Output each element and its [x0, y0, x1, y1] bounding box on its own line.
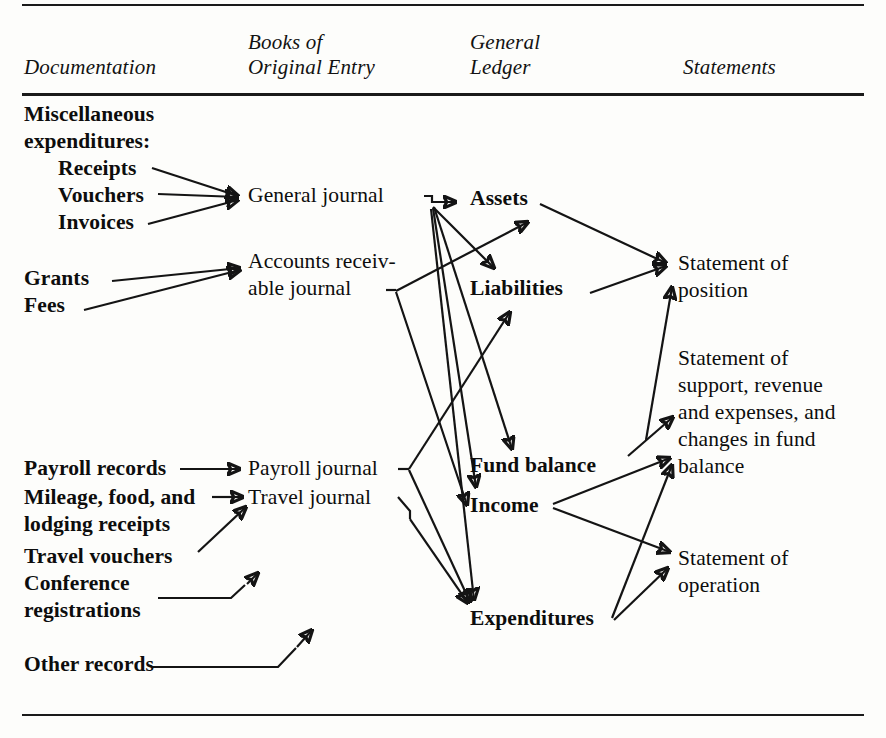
arrow-assets-to-statement-of-position: [540, 204, 666, 263]
arrow-receipts-to-general-journal: [152, 168, 238, 196]
node-fund-balance: Fund balance: [470, 452, 596, 479]
node-general-journal: General journal: [248, 182, 384, 209]
arrow-fund-balance-to-statement-of-position: [646, 287, 672, 440]
node-fees: Fees: [24, 292, 65, 319]
arrow-payroll-journal-to-expenditures: [409, 470, 470, 602]
arrow-other-records-head: [297, 630, 312, 647]
arrow-general-journal-to-fund-balance: [434, 207, 512, 449]
node-receipts: Receipts: [58, 155, 136, 182]
column-header-general-ledger: General Ledger: [470, 30, 540, 80]
node-liabilities: Liabilities: [470, 275, 563, 302]
arrow-general-journal-to-expenditures: [431, 209, 474, 600]
arrow-general-journal-to-assets: [424, 196, 456, 202]
column-header-books-of-original-entry: Books of Original Entry: [248, 30, 375, 80]
path-travel-journal-elbow: [398, 497, 410, 519]
node-statement-of-operation: Statement of operation: [678, 545, 788, 599]
header-rule: [22, 93, 864, 96]
node-conference-registrations: Conference registrations: [24, 570, 141, 624]
arrow-payroll-journal-to-liabilities: [409, 312, 510, 469]
node-vouchers: Vouchers: [58, 182, 144, 209]
arrow-invoices-to-general-journal: [148, 200, 238, 224]
node-accounts-receivable-journal: Accounts receiv- able journal: [248, 248, 396, 302]
arrow-other-records-to-travel-journal: [152, 648, 296, 667]
arrow-ar-journal-to-income: [396, 292, 467, 505]
arrow-conference-elbow-head: [247, 573, 258, 584]
figure-canvas: Documentation Books of Original Entry Ge…: [0, 0, 886, 738]
column-header-documentation: Documentation: [24, 55, 156, 80]
node-mileage-food-lodging-receipts: Mileage, food, and lodging receipts: [24, 484, 195, 538]
node-payroll-records: Payroll records: [24, 455, 166, 482]
arrow-vouchers-to-general-journal: [158, 194, 238, 197]
top-rule: [22, 4, 864, 6]
arrow-grants-to-ar-journal: [112, 268, 240, 281]
node-travel-vouchers: Travel vouchers: [24, 543, 173, 570]
node-income: Income: [470, 492, 539, 519]
arrow-travel-vouchers-to-travel-journal: [198, 507, 246, 552]
node-miscellaneous-expenditures: Miscellaneous expenditures:: [24, 101, 154, 155]
arrow-liabilities-to-statement-of-position: [590, 266, 666, 293]
node-invoices: Invoices: [58, 209, 134, 236]
node-other-records: Other records: [24, 651, 154, 678]
arrow-general-journal-to-income: [433, 208, 476, 487]
arrow-fund-balance-to-statement-of-support: [628, 417, 673, 456]
arrow-fees-to-ar-journal: [84, 270, 240, 310]
arrow-income-to-statement-of-operation: [553, 508, 670, 552]
node-assets: Assets: [470, 185, 528, 212]
arrow-expenditures-to-statement-of-operation: [614, 568, 668, 620]
arrow-expenditures-to-statement-of-support: [612, 465, 672, 618]
node-expenditures: Expenditures: [470, 605, 594, 632]
arrow-general-journal-to-liabilities: [433, 207, 494, 268]
arrow-conference-registrations-to-travel-journal: [158, 585, 245, 598]
bottom-rule: [22, 714, 864, 716]
column-header-statements: Statements: [683, 55, 776, 80]
node-statement-of-support-revenue-expenses: Statement of support, revenue and expens…: [678, 345, 836, 480]
node-grants: Grants: [24, 265, 89, 292]
arrow-travel-journal-to-expenditures: [410, 519, 468, 603]
node-payroll-journal: Payroll journal: [248, 455, 378, 482]
node-statement-of-position: Statement of position: [678, 250, 788, 304]
node-travel-journal: Travel journal: [248, 484, 371, 511]
